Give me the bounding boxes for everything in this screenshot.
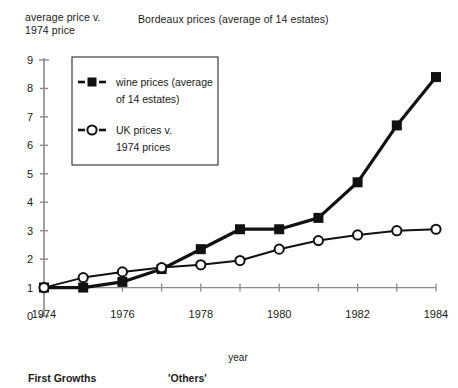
data-point-marker <box>118 267 127 276</box>
data-point-marker <box>196 244 206 254</box>
data-point-marker <box>274 224 284 234</box>
x-tick-label: 1976 <box>110 308 134 320</box>
data-point-marker <box>353 230 362 239</box>
data-point-marker <box>39 283 48 292</box>
caption-others: 'Others' <box>168 372 207 384</box>
legend-label: of 14 estates) <box>116 93 180 105</box>
caption-first-growths: First Growths <box>28 372 96 384</box>
data-point-marker <box>313 213 323 223</box>
y-tick-label: 4 <box>27 196 33 208</box>
data-point-marker <box>235 224 245 234</box>
y-tick-label: 3 <box>27 225 33 237</box>
legend-marker-open-circle <box>87 125 96 134</box>
data-point-marker <box>117 277 127 287</box>
data-point-marker <box>392 120 402 130</box>
data-point-marker <box>431 225 440 234</box>
x-tick-label: 1978 <box>189 308 213 320</box>
x-axis-title-text: year <box>210 352 247 363</box>
data-point-marker <box>196 260 205 269</box>
y-axis-caption: average price v. 1974 price <box>25 11 101 37</box>
x-tick-label: 1980 <box>267 308 291 320</box>
data-point-marker <box>235 256 244 265</box>
y-tick-label: 7 <box>27 111 33 123</box>
data-point-marker <box>431 72 441 82</box>
bottom-captions: First Growths 'Others' <box>0 372 458 388</box>
data-point-marker <box>314 236 323 245</box>
x-tick-label: 1982 <box>345 308 369 320</box>
chart-title: Bordeaux prices (average of 14 estates) <box>138 13 329 25</box>
y-tick-label: 6 <box>27 139 33 151</box>
data-point-marker <box>79 273 88 282</box>
x-axis-title: year <box>0 352 458 363</box>
y-tick-label: 2 <box>27 253 33 265</box>
legend-label: 1974 prices <box>116 141 170 153</box>
y-tick-label: 9 <box>27 54 33 66</box>
data-point-marker <box>157 263 166 272</box>
line-chart-plot: 0123456789197419761978198019821984 wine … <box>0 0 458 348</box>
y-tick-label: 5 <box>27 168 33 180</box>
data-point-marker <box>392 226 401 235</box>
legend-inset: wine prices (averageof 14 estates)UK pri… <box>72 57 218 165</box>
data-point-marker <box>78 283 88 293</box>
legend-label: UK prices v. <box>116 124 172 136</box>
x-tick-label: 1984 <box>424 308 448 320</box>
y-tick-label: 1 <box>27 282 33 294</box>
data-point-marker <box>353 177 363 187</box>
chart-figure: average price v. 1974 price Bordeaux pri… <box>0 0 458 388</box>
x-tick-label: 1974 <box>32 308 56 320</box>
legend-marker-filled-square <box>88 78 97 87</box>
y-tick-label: 8 <box>27 82 33 94</box>
legend-label: wine prices (average <box>115 76 213 88</box>
data-point-marker <box>275 245 284 254</box>
